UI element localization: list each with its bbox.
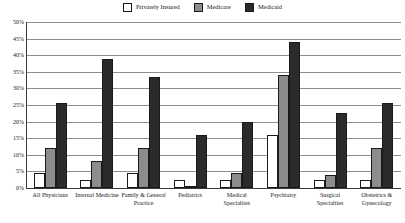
x-tick-label: Pediatrics xyxy=(167,191,214,207)
y-tick-label: 0% xyxy=(2,185,24,191)
bar-privately-insured[interactable] xyxy=(127,173,138,188)
bar-privately-insured[interactable] xyxy=(314,180,325,188)
x-tick-label: Surgical Specialties xyxy=(307,191,354,207)
bar-medicaid[interactable] xyxy=(56,103,67,188)
chart-legend: Privately InsuredMedicareMedicaid xyxy=(0,3,405,12)
y-tick-label: 20% xyxy=(2,119,24,125)
bar-medicare[interactable] xyxy=(91,161,102,188)
y-tick-label: 30% xyxy=(2,85,24,91)
x-tick-label: Internal Medicine xyxy=(74,191,121,207)
bar-medicare[interactable] xyxy=(371,148,382,188)
bar-privately-insured[interactable] xyxy=(80,180,91,188)
y-tick-label: 5% xyxy=(2,168,24,174)
bar-group xyxy=(307,22,354,188)
bar-medicaid[interactable] xyxy=(102,59,113,188)
bar-medicaid[interactable] xyxy=(382,103,393,188)
y-tick-label: 10% xyxy=(2,152,24,158)
legend-item-privately_insured[interactable]: Privately Insured xyxy=(123,3,180,12)
bar-group xyxy=(27,22,74,188)
x-tick-label: Psychiatry xyxy=(260,191,307,207)
bar-privately-insured[interactable] xyxy=(267,135,278,188)
legend-label-privately_insured: Privately Insured xyxy=(136,4,180,10)
y-tick-label: 15% xyxy=(2,135,24,141)
bar-medicaid[interactable] xyxy=(289,42,300,188)
y-tick-label: 45% xyxy=(2,36,24,42)
legend-swatch-privately_insured xyxy=(123,3,132,12)
bar-group xyxy=(214,22,261,188)
bar-group xyxy=(353,22,400,188)
bar-privately-insured[interactable] xyxy=(174,180,185,188)
x-axis: All PhysiciansInternal MedicineFamily & … xyxy=(27,191,400,207)
bar-medicare[interactable] xyxy=(45,148,56,188)
bar-medicare[interactable] xyxy=(185,186,196,188)
legend-label-medicare: Medicare xyxy=(207,4,231,10)
bar-privately-insured[interactable] xyxy=(220,180,231,188)
legend-label-medicaid: Medicaid xyxy=(258,4,282,10)
bar-medicaid[interactable] xyxy=(196,135,207,188)
bar-groups xyxy=(27,22,400,188)
bar-privately-insured[interactable] xyxy=(34,173,45,188)
y-tick-label: 25% xyxy=(2,102,24,108)
bar-group xyxy=(167,22,214,188)
bar-medicaid[interactable] xyxy=(149,77,160,188)
y-tick-label: 35% xyxy=(2,69,24,75)
bar-group xyxy=(74,22,121,188)
legend-swatch-medicare xyxy=(194,3,203,12)
bar-medicare[interactable] xyxy=(278,75,289,188)
legend-item-medicare[interactable]: Medicare xyxy=(194,3,231,12)
x-tick-label: Family & General Practice xyxy=(120,191,167,207)
bar-medicare[interactable] xyxy=(231,173,242,188)
x-tick-label: All Physicians xyxy=(27,191,74,207)
legend-item-medicaid[interactable]: Medicaid xyxy=(245,3,282,12)
x-tick-label: Medical Specialties xyxy=(214,191,261,207)
bar-group xyxy=(260,22,307,188)
bar-medicaid[interactable] xyxy=(242,122,253,188)
y-axis: 50%45%40%35%30%25%20%15%10%5%0% xyxy=(0,22,24,188)
bar-privately-insured[interactable] xyxy=(360,180,371,188)
y-tick-label: 50% xyxy=(2,19,24,25)
bar-medicare[interactable] xyxy=(138,148,149,188)
bar-chart: Privately InsuredMedicareMedicaid 50%45%… xyxy=(0,0,405,223)
x-tick-label: Obstetrics & Gynecology xyxy=(353,191,400,207)
y-tick-label: 40% xyxy=(2,52,24,58)
bar-medicaid[interactable] xyxy=(336,113,347,188)
legend-swatch-medicaid xyxy=(245,3,254,12)
bar-medicare[interactable] xyxy=(325,175,336,188)
bar-group xyxy=(120,22,167,188)
